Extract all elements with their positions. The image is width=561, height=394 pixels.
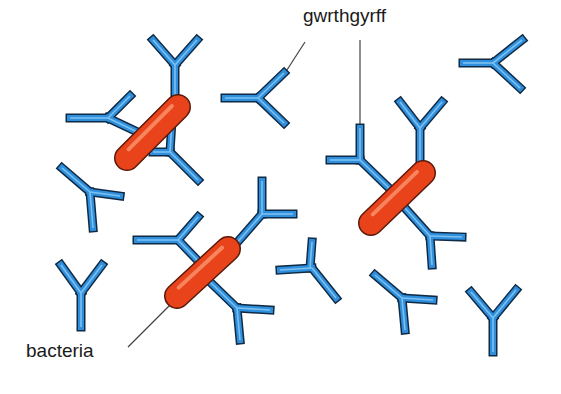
antibody-icon: [405, 208, 462, 265]
antibody-icon: [280, 242, 336, 298]
antibodies-group: [61, 40, 522, 352]
antibody-icon: [471, 290, 516, 352]
antibody-icon: [463, 40, 522, 88]
antibody-icon: [61, 265, 102, 327]
antibody-icon: [330, 128, 389, 188]
leader-lines: [128, 40, 360, 347]
antibodies-label: gwrthgyrff: [303, 5, 386, 27]
antibody-icon: [225, 73, 284, 123]
antibody-icon: [400, 102, 442, 165]
bacteria-label: bacteria: [26, 340, 94, 362]
antibody-icon: [235, 181, 293, 245]
antibody-icon: [62, 168, 120, 228]
antibody-icon: [210, 282, 270, 340]
antibody-bacteria-diagram: [0, 0, 561, 394]
leader-line: [285, 42, 305, 73]
antibody-icon: [375, 275, 433, 330]
antibody-icon: [137, 217, 200, 263]
